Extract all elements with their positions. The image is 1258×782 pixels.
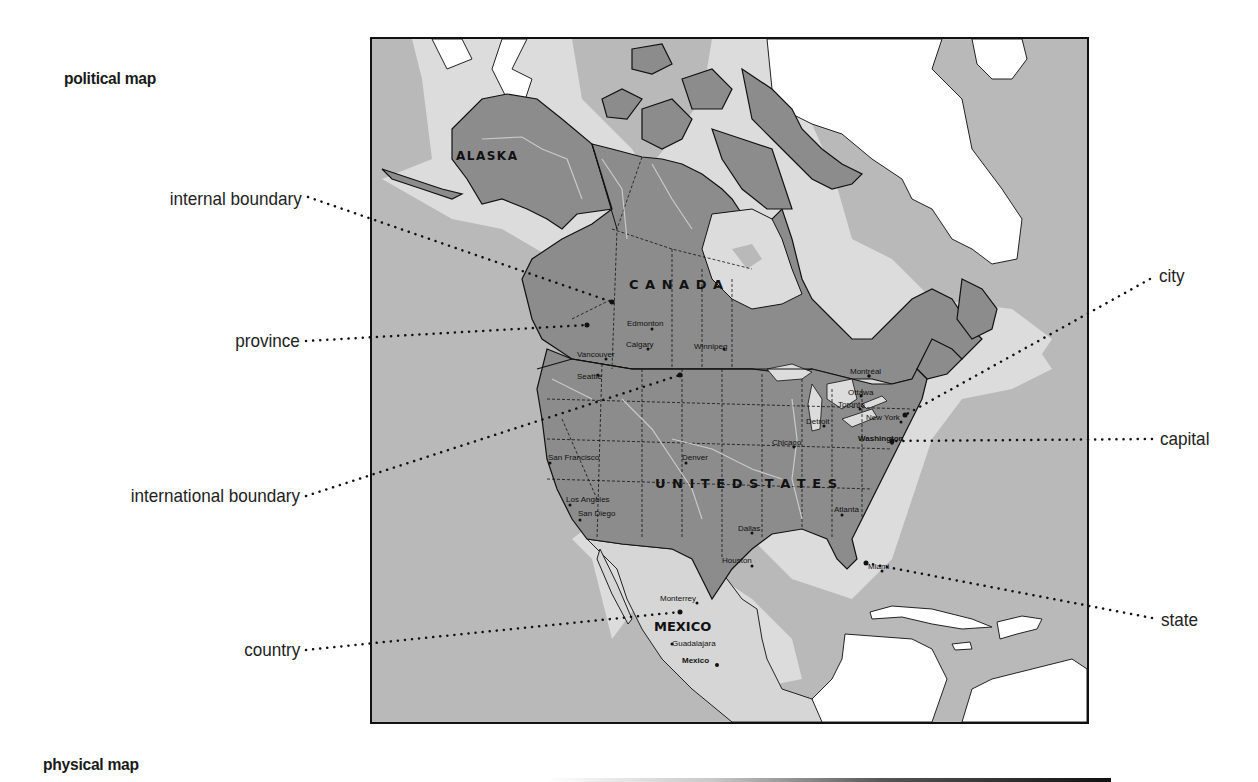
callout-province: province (235, 330, 300, 352)
callout-capital: capital (1160, 428, 1209, 450)
city-winnipeg: Winnipeg (694, 342, 727, 351)
city-new-york: New York (866, 413, 901, 422)
label-mexico: MEXICO (654, 619, 711, 634)
city-toronto: Toronto (838, 400, 865, 409)
city-calgary: Calgary (626, 340, 654, 349)
city-monterrey: Monterrey (660, 594, 696, 603)
physical-map-frame (545, 778, 1111, 782)
city-vancouver: Vancouver (577, 350, 615, 359)
city-seattle: Seattle (577, 372, 602, 381)
city-miami: Miami (868, 562, 890, 571)
city-chicago: Chicago (772, 438, 802, 447)
north-america-map: ALASKA C A N A D A U N I T E D S T A T E… (372, 39, 1087, 722)
political-map: ALASKA C A N A D A U N I T E D S T A T E… (370, 37, 1089, 724)
political-map-title: political map (64, 69, 156, 89)
callout-country: country (244, 639, 300, 661)
callout-state: state (1161, 609, 1198, 631)
capital-mexico-city: Mexico (682, 656, 709, 665)
city-edmonton: Edmonton (627, 319, 663, 328)
physical-map-title: physical map (43, 755, 139, 775)
city-san-francisco: San Francisco (548, 453, 600, 462)
city-san-diego: San Diego (578, 509, 616, 518)
city-montreal: Montréal (850, 367, 881, 376)
label-united-states: U N I T E D S T A T E S (655, 476, 838, 491)
label-canada: C A N A D A (629, 277, 724, 292)
city-detroit: Detroit (806, 417, 830, 426)
city-dallas: Dallas (738, 524, 760, 533)
label-alaska: ALASKA (456, 149, 518, 163)
capital-washington: Washington (858, 434, 904, 443)
city-guadalajara: Guadalajara (672, 639, 716, 648)
callout-internal-boundary: internal boundary (170, 188, 302, 210)
city-houston: Houston (722, 556, 752, 565)
city-denver: Denver (682, 453, 708, 462)
city-atlanta: Atlanta (834, 505, 859, 514)
city-los-angeles: Los Angeles (566, 495, 610, 504)
callout-international-boundary: international boundary (131, 485, 300, 507)
callout-city: city (1159, 265, 1185, 287)
